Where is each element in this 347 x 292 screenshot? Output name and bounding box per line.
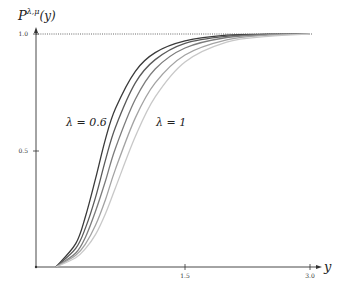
- x-axis-arrow-icon: [316, 265, 322, 269]
- origin-dot: [35, 266, 37, 268]
- annotation-lambda-1: λ = 1: [155, 116, 186, 129]
- y-axis-label: Pλ,μ(y): [17, 7, 56, 23]
- y-tick-label-1.0: 1.0: [18, 30, 28, 37]
- y-axis-arrow-icon: [34, 27, 38, 33]
- x-tick-label-1.5: 1.5: [180, 272, 190, 279]
- annotation-lambda-0.6: λ = 0.6: [65, 116, 107, 129]
- x-tick-label-3.0: 3.0: [305, 272, 315, 279]
- series-line-2: [56, 34, 310, 267]
- series-line-4: [56, 34, 310, 267]
- series-line-3: [56, 34, 310, 267]
- chart: 0.5 1.0 1.5 3.0 Pλ,μ(y) y λ = 0.6 λ = 1: [0, 0, 347, 292]
- series-line-0: [56, 34, 310, 267]
- series-line-1: [56, 34, 310, 267]
- series-group: [56, 34, 310, 267]
- y-tick-label-0.5: 0.5: [18, 147, 28, 154]
- x-axis-label: y: [323, 259, 332, 274]
